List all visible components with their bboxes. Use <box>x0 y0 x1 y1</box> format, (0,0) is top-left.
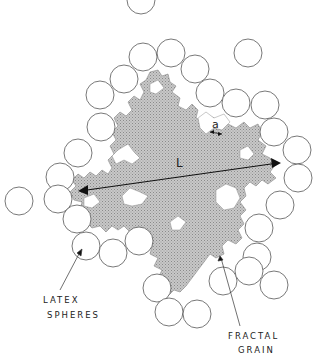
fractal-grain-label-line1: FRACTAL <box>228 332 279 341</box>
latex-sphere <box>196 79 224 107</box>
latex-sphere <box>86 81 114 109</box>
latex-sphere <box>222 89 250 117</box>
length-label: L <box>176 157 183 169</box>
latex-sphere <box>87 113 115 141</box>
latex-sphere <box>234 39 262 67</box>
latex-sphere <box>129 43 157 71</box>
latex-sphere <box>260 118 288 146</box>
latex-sphere <box>110 65 138 93</box>
fractal-grain-label-line2: GRAIN <box>238 346 275 355</box>
latex-sphere <box>183 300 211 328</box>
latex-sphere <box>157 39 185 67</box>
latex-sphere <box>5 187 33 215</box>
latex-sphere <box>266 191 294 219</box>
latex-sphere <box>209 267 237 295</box>
latex-sphere <box>283 136 311 164</box>
latex-sphere <box>155 298 183 326</box>
latex-spheres-label-line1: LATEX <box>43 296 79 305</box>
latex-sphere <box>245 214 273 242</box>
latex-sphere <box>251 91 279 119</box>
radius-label: a <box>212 119 219 130</box>
latex-sphere <box>99 239 127 267</box>
latex-sphere <box>72 232 100 260</box>
latex-sphere <box>63 205 91 233</box>
latex-sphere <box>284 164 312 192</box>
latex-sphere <box>64 139 92 167</box>
latex-sphere <box>235 257 263 285</box>
latex-spheres-label-line2: SPHERES <box>47 311 100 320</box>
latex-sphere <box>125 227 153 255</box>
latex-sphere <box>181 55 209 83</box>
arrowhead-right-icon <box>271 158 281 168</box>
latex-sphere <box>127 0 155 14</box>
latex-sphere <box>260 271 288 299</box>
